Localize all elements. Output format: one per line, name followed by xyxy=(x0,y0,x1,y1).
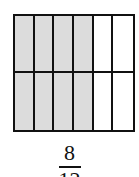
shaded-cell xyxy=(35,16,55,73)
shaded-cell xyxy=(74,73,94,130)
unshaded-cell xyxy=(113,73,133,130)
unshaded-cell xyxy=(113,16,133,73)
shaded-cell xyxy=(15,73,35,130)
shaded-cell xyxy=(74,16,94,73)
shaded-cell xyxy=(54,73,74,130)
numerator: 8 xyxy=(0,142,139,164)
shaded-cell xyxy=(35,73,55,130)
shaded-cell xyxy=(15,16,35,73)
unshaded-cell xyxy=(94,73,114,130)
fraction-label: 8 12 xyxy=(0,142,139,177)
unshaded-cell xyxy=(94,16,114,73)
denominator: 12 xyxy=(0,169,139,177)
fraction-grid xyxy=(13,14,135,132)
shaded-cell xyxy=(54,16,74,73)
